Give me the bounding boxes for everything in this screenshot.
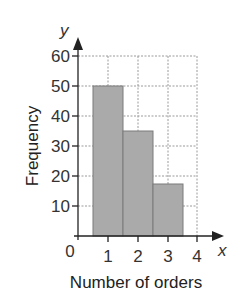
svg-text:3: 3 [163,247,172,266]
svg-text:1: 1 [103,247,112,266]
x-tick-labels: 0 1 2 3 4 [65,242,201,266]
y-tick-labels: 60 50 40 30 20 10 [51,47,70,216]
x-axis-title: Number of orders [70,273,202,292]
svg-text:40: 40 [51,107,70,126]
bar-3 [153,184,183,236]
svg-text:20: 20 [51,167,70,186]
y-axis-title: Frequency [23,105,42,186]
svg-text:10: 10 [51,197,70,216]
bar-2 [123,131,153,236]
bar-1 [93,86,123,236]
svg-text:0: 0 [65,242,74,261]
y-axis-arrow-icon [73,37,83,50]
svg-text:4: 4 [192,247,201,266]
svg-text:50: 50 [51,77,70,96]
x-variable-label: x [217,241,227,260]
histogram-chart: y x 60 50 40 30 20 10 0 1 2 3 4 Number o… [0,0,240,306]
svg-text:30: 30 [51,137,70,156]
svg-text:60: 60 [51,47,70,66]
x-axis-arrow-icon [212,231,224,241]
y-variable-label: y [59,21,70,40]
svg-text:2: 2 [133,247,142,266]
